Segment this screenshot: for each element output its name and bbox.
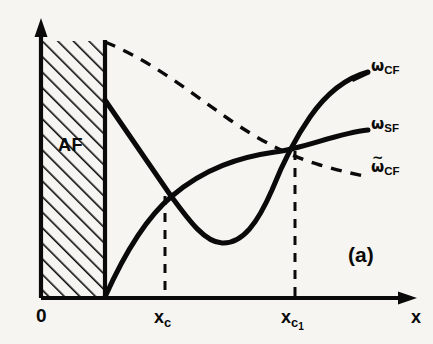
- x-axis-label: x: [411, 308, 421, 326]
- x-c1-tick-label: xc1: [281, 308, 304, 326]
- x-c-base: x: [154, 307, 164, 327]
- omega-cf-tilde-curve-label: ~ωCF: [371, 159, 400, 175]
- omega-sf-curve-label: ωSF: [371, 116, 399, 132]
- omega-sf-symbol: ω: [371, 115, 384, 133]
- omega-tilde-wrap: ~ω: [371, 159, 384, 175]
- x-c-tick-label: xc: [154, 308, 171, 326]
- af-region-label: AF: [58, 136, 83, 154]
- panel-label: (a): [348, 244, 374, 265]
- x-c1-subscript: c1: [291, 315, 304, 330]
- tilde-accent: ~: [372, 151, 383, 165]
- x-c1-sub-one: 1: [298, 321, 304, 332]
- origin-label: 0: [36, 306, 47, 325]
- omega-cf-symbol: ω: [371, 57, 384, 75]
- omega-cf-subscript: CF: [384, 64, 399, 76]
- x-c1-base: x: [281, 307, 291, 327]
- af-hatched-region: [41, 41, 105, 298]
- omega-cf-curve-label: ωCF: [371, 58, 400, 74]
- omega-cf-curve: [105, 72, 368, 243]
- omega-cf-tilde-subscript: CF: [384, 165, 399, 177]
- omega-sf-subscript: SF: [384, 122, 399, 134]
- x-c-subscript: c: [164, 315, 171, 330]
- figure-panel-a: AF 0 xc xc1 x (a) ωCF ωSF ~ωCF: [0, 0, 433, 344]
- plot-canvas: [0, 0, 433, 344]
